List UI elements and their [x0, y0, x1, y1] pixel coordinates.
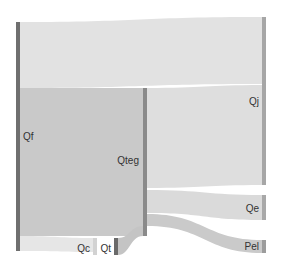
label-qt: Qt — [100, 243, 111, 254]
label-pel: Pel — [245, 241, 259, 252]
label-qf: Qf — [23, 131, 34, 142]
node-qf[interactable] — [16, 22, 20, 251]
link-qteg-qj[interactable] — [147, 85, 262, 188]
label-qe: Qe — [246, 203, 260, 214]
sankey-diagram: Qf Qteg Qc Qt Qj Qe Pel — [0, 0, 282, 271]
node-qe[interactable] — [262, 195, 266, 220]
node-qt[interactable] — [114, 238, 118, 255]
links — [20, 17, 262, 255]
node-pel[interactable] — [262, 240, 266, 253]
label-qc: Qc — [77, 243, 90, 254]
link-qf-qj[interactable] — [20, 17, 262, 88]
node-qj[interactable] — [262, 17, 266, 185]
node-qteg[interactable] — [143, 88, 147, 236]
node-qc[interactable] — [93, 238, 97, 255]
label-qteg: Qteg — [117, 155, 139, 166]
label-qj: Qj — [249, 96, 259, 107]
